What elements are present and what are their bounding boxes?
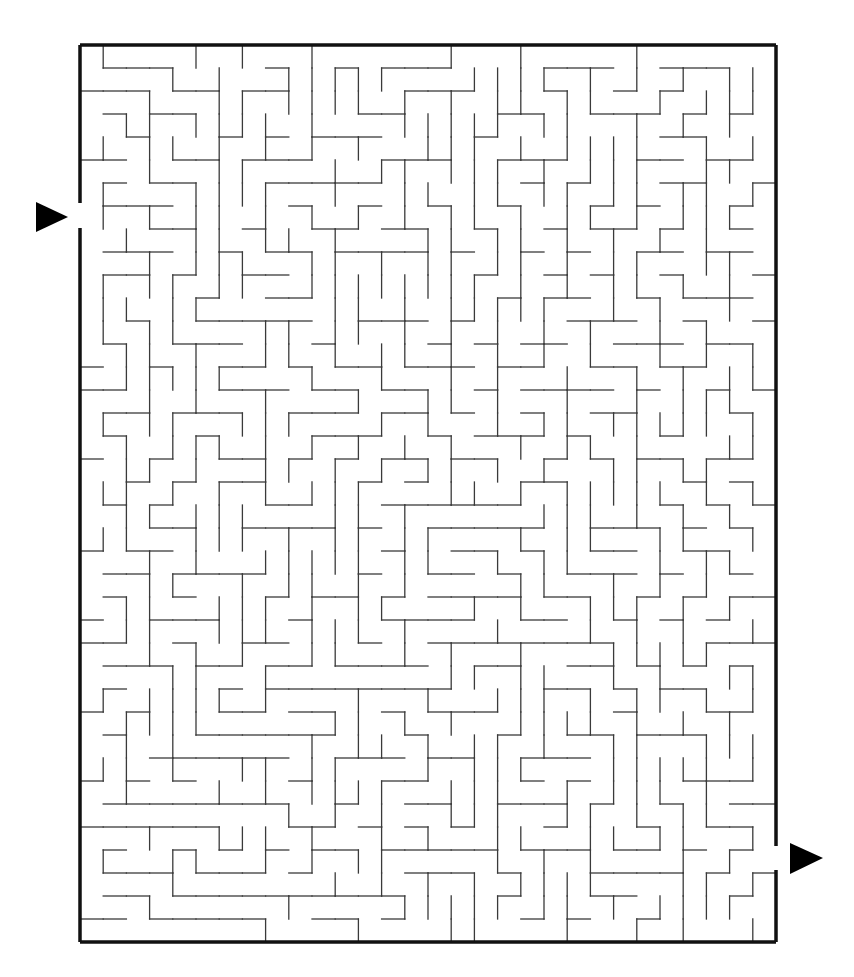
start-arrow-icon (36, 202, 68, 232)
maze-board[interactable] (0, 0, 854, 977)
finish-arrow-icon (790, 843, 823, 874)
maze-border (80, 45, 776, 942)
maze-walls (80, 45, 776, 942)
